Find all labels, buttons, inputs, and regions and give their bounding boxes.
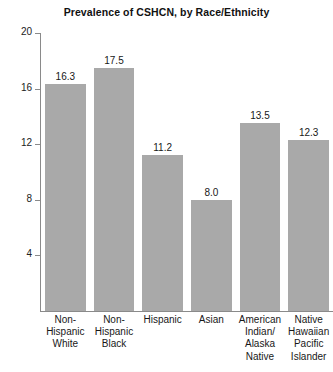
- bar-chart: Prevalence of CSHCN, by Race/Ethnicity 4…: [0, 0, 333, 372]
- x-axis-category-label: NativeHawaiianPacificIslander: [284, 314, 333, 363]
- bar: [240, 123, 281, 311]
- bar-group: 17.5: [90, 33, 139, 311]
- bar-value-label: 16.3: [41, 71, 90, 82]
- x-axis-line: [40, 311, 333, 312]
- y-tick-16: 16: [35, 89, 40, 90]
- bar-group: 12.3: [284, 33, 333, 311]
- y-tick-label: 12: [21, 137, 32, 148]
- y-tick-label: 8: [26, 193, 32, 204]
- y-tick-20: 20: [35, 33, 40, 34]
- x-axis-category-label: Non-HispanicBlack: [90, 314, 139, 351]
- x-label-line: Non-: [90, 314, 139, 326]
- x-label-line: Asian: [187, 314, 236, 326]
- bar-value-label: 11.2: [138, 142, 187, 153]
- y-tick-12: 12: [35, 144, 40, 145]
- x-label-line: Indian/: [236, 326, 285, 338]
- x-axis-category-label: Hispanic: [138, 314, 187, 326]
- y-tick-8: 8: [35, 200, 40, 201]
- x-axis-category-label: Asian: [187, 314, 236, 326]
- x-label-line: Hispanic: [138, 314, 187, 326]
- bar: [191, 200, 232, 311]
- x-label-line: White: [41, 338, 90, 350]
- x-label-line: Black: [90, 338, 139, 350]
- bar-group: 11.2: [138, 33, 187, 311]
- bars-layer: 16.317.511.28.013.512.3: [41, 33, 333, 311]
- x-label-line: Pacific: [284, 338, 333, 350]
- bar: [45, 84, 86, 311]
- x-label-line: American: [236, 314, 285, 326]
- bar-group: 13.5: [236, 33, 285, 311]
- bar: [288, 140, 329, 311]
- y-tick-label: 16: [21, 82, 32, 93]
- y-tick-label: 4: [26, 248, 32, 259]
- x-axis-labels: Non-HispanicWhiteNon-HispanicBlackHispan…: [41, 314, 333, 372]
- bar-value-label: 8.0: [187, 187, 236, 198]
- x-label-line: Native: [236, 351, 285, 363]
- bar: [142, 155, 183, 311]
- chart-title: Prevalence of CSHCN, by Race/Ethnicity: [0, 6, 333, 18]
- bar: [94, 68, 135, 311]
- bar-value-label: 17.5: [90, 55, 139, 66]
- x-axis-category-label: Non-HispanicWhite: [41, 314, 90, 351]
- bar-value-label: 13.5: [236, 110, 285, 121]
- x-label-line: Hawaiian: [284, 326, 333, 338]
- x-label-line: Hispanic: [41, 326, 90, 338]
- plot-area: 48121620 16.317.511.28.013.512.3: [40, 33, 333, 311]
- y-tick-label: 20: [21, 26, 32, 37]
- bar-group: 8.0: [187, 33, 236, 311]
- x-axis-category-label: AmericanIndian/AlaskaNative: [236, 314, 285, 363]
- x-label-line: Alaska: [236, 338, 285, 350]
- x-label-line: Non-: [41, 314, 90, 326]
- x-label-line: Islander: [284, 351, 333, 363]
- bar-group: 16.3: [41, 33, 90, 311]
- bar-value-label: 12.3: [284, 127, 333, 138]
- x-label-line: Native: [284, 314, 333, 326]
- x-label-line: Hispanic: [90, 326, 139, 338]
- y-tick-4: 4: [35, 255, 40, 256]
